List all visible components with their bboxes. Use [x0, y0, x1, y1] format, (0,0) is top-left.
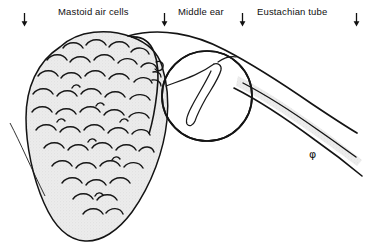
phi-symbol-annotation: φ: [309, 148, 316, 161]
anatomy-figure: Mastoid air cells Middle ear Eustachian …: [0, 0, 371, 249]
eustachian-tube: [234, 76, 362, 176]
eustachian-tube-lower-wall: [234, 88, 362, 176]
anatomy-drawing: [0, 0, 371, 249]
